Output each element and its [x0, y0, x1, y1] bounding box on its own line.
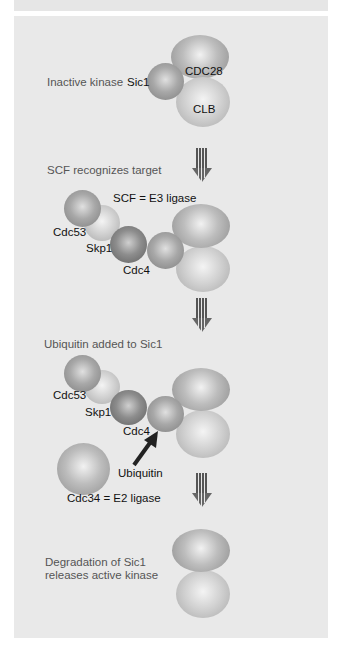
sic1-sphere-3	[147, 396, 184, 432]
skp1-label-3: Skp1	[85, 406, 111, 419]
step1-label: Inactive kinase	[47, 76, 123, 89]
step3-label: Ubiquitin added to Sic1	[44, 338, 162, 351]
clb-sphere-4	[176, 570, 230, 618]
cdc34-sphere	[57, 443, 110, 495]
sic1-sphere	[147, 63, 184, 100]
sic1-label: Sic1	[127, 76, 149, 89]
e2-label: Cdc34 = E2 ligase	[67, 492, 161, 505]
cdc4-sphere	[110, 226, 147, 263]
cdc4-label: Cdc4	[123, 264, 150, 277]
clb-sphere	[176, 77, 230, 127]
clb-sphere-3	[176, 410, 230, 458]
cdc53-sphere	[64, 190, 101, 227]
ubiquitin-arrow-icon	[130, 428, 162, 468]
cdc53-label-3: Cdc53	[53, 389, 86, 402]
down-arrow-icon	[190, 298, 214, 334]
cdc28-label: CDC28	[185, 65, 223, 78]
skp1-label: Skp1	[86, 242, 112, 255]
step4-label-line1: Degradation of Sic1	[45, 556, 146, 569]
sic1-sphere-2	[147, 232, 184, 269]
step4-label-line2: releases active kinase	[45, 569, 158, 582]
cdc4-sphere-3	[110, 390, 147, 425]
down-arrow-icon	[190, 148, 214, 184]
top-strip	[14, 0, 328, 11]
clb-label: CLB	[193, 103, 215, 116]
clb-sphere-2	[176, 246, 230, 292]
scf-e3-label: SCF = E3 ligase	[113, 192, 196, 205]
diagram-panel	[14, 16, 328, 638]
cdc28-sphere-4	[172, 529, 230, 572]
cdc53-sphere-3	[64, 355, 101, 392]
down-arrow-icon	[190, 473, 214, 509]
ubiquitin-label: Ubiquitin	[118, 467, 163, 480]
step2-label: SCF recognizes target	[47, 164, 161, 177]
cdc53-label: Cdc53	[53, 226, 86, 239]
